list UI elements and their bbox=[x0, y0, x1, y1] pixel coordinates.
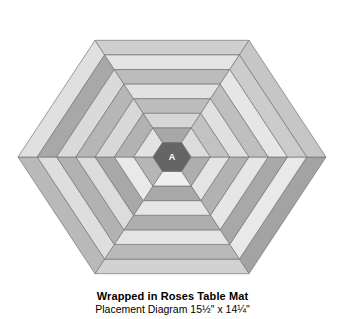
caption: Wrapped in Roses Table Mat Placement Dia… bbox=[0, 290, 345, 316]
quilt-strip bbox=[105, 55, 240, 70]
diagram-title: Wrapped in Roses Table Mat bbox=[0, 290, 345, 303]
quilt-strip bbox=[114, 230, 229, 245]
placement-diagram-page: A Wrapped in Roses Table Mat Placement D… bbox=[0, 0, 345, 319]
quilt-strip bbox=[134, 201, 211, 216]
quilt-strip bbox=[105, 244, 240, 259]
hexagon-quilt-diagram: A bbox=[0, 0, 345, 296]
quilt-strip bbox=[143, 113, 201, 128]
center-hexagon-label: A bbox=[169, 152, 176, 162]
diagram-subtitle: Placement Diagram 15½" x 14¼" bbox=[0, 303, 345, 316]
quilt-strip bbox=[124, 215, 220, 230]
quilt-strip bbox=[95, 40, 249, 55]
quilt-strip bbox=[134, 99, 211, 114]
quilt-strip bbox=[95, 259, 249, 274]
quilt-strip bbox=[143, 186, 201, 201]
quilt-strip bbox=[114, 70, 229, 85]
quilt-strip bbox=[124, 84, 220, 99]
